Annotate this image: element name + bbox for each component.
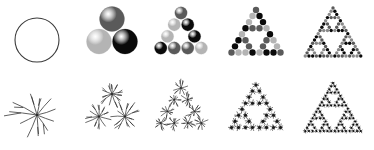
panel-top-level-0-canvas (0, 0, 75, 75)
panel-bottom-level-2-canvas (143, 75, 219, 150)
panel-bottom-level-2 (143, 75, 219, 150)
panel-bottom-level-4 (292, 75, 374, 150)
panel-top-level-4-canvas (292, 0, 374, 75)
panel-top-level-0 (0, 0, 75, 75)
panel-bottom-level-1 (70, 75, 152, 150)
panel-bottom-level-3 (216, 75, 296, 150)
star-row (0, 75, 374, 150)
panel-bottom-level-0 (0, 75, 75, 150)
panel-bottom-level-3-canvas (216, 75, 296, 150)
panel-top-level-2 (143, 0, 219, 75)
panel-bottom-level-0-canvas (0, 75, 75, 150)
panel-top-level-3-canvas (216, 0, 296, 75)
panel-bottom-level-1-canvas (70, 75, 152, 150)
panel-top-level-4 (292, 0, 374, 75)
panel-top-level-3 (216, 0, 296, 75)
panel-top-level-1-canvas (70, 0, 152, 75)
sphere-row (0, 0, 374, 75)
sierpinski-figure (0, 0, 374, 150)
panel-top-level-2-canvas (143, 0, 219, 75)
panel-bottom-level-4-canvas (292, 75, 374, 150)
panel-top-level-1 (70, 0, 152, 75)
